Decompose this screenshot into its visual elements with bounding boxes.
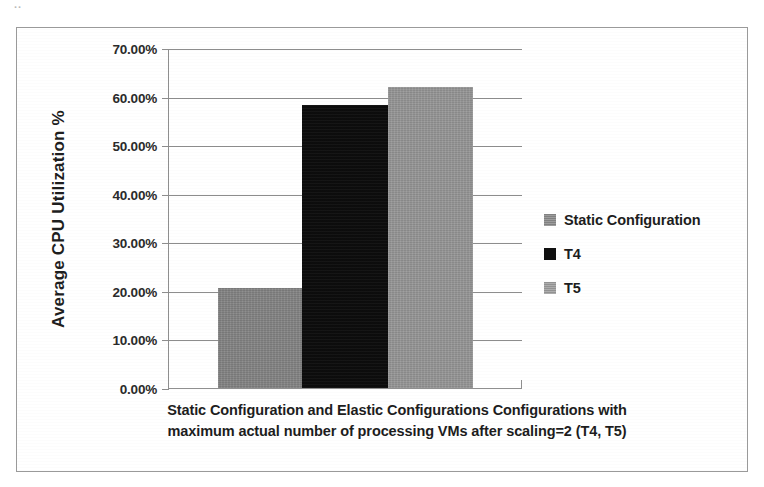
- legend-item-label: T5: [564, 280, 581, 296]
- figure-frame: Average CPU Utilization % 70.00%60.00%50…: [16, 27, 748, 472]
- plot-area: 70.00%60.00%50.00%40.00%30.00%20.00%10.0…: [168, 49, 522, 389]
- y-axis-title: Average CPU Utilization %: [46, 49, 72, 389]
- y-axis-tick-label: 70.00%: [112, 42, 157, 57]
- x-axis-right-tick: [521, 380, 522, 389]
- y-axis-tick-label: 50.00%: [112, 139, 157, 154]
- y-axis-title-label: Average CPU Utilization %: [49, 110, 69, 328]
- y-axis-tick-mark: [162, 49, 169, 50]
- gridline-70.00: [168, 49, 522, 50]
- y-axis-line: [168, 49, 169, 389]
- gridline-0.00: [168, 389, 522, 390]
- legend-item-label: Static Configuration: [564, 212, 701, 228]
- y-axis-tick-mark: [162, 98, 169, 99]
- y-axis-tick-label: 0.00%: [120, 382, 157, 397]
- legend-item-t5[interactable]: T5: [544, 271, 734, 305]
- y-axis-tick-mark: [162, 243, 169, 244]
- bar-t5[interactable]: [388, 87, 473, 388]
- y-axis-tick-label: 30.00%: [112, 236, 157, 251]
- legend-item-label: T4: [564, 246, 581, 262]
- y-axis-tick-label: 10.00%: [112, 333, 157, 348]
- legend-item-t4[interactable]: T4: [544, 237, 734, 271]
- y-axis-tick-mark: [162, 389, 169, 390]
- y-axis-tick-label: 60.00%: [112, 90, 157, 105]
- legend-swatch-icon: [544, 248, 556, 260]
- y-axis-tick-label: 20.00%: [112, 284, 157, 299]
- y-axis-tick-mark: [162, 146, 169, 147]
- bar-static-configuration[interactable]: [218, 288, 303, 388]
- legend-swatch-icon: [544, 214, 556, 226]
- y-axis-tick-mark: [162, 195, 169, 196]
- x-axis-caption: Static Configuration and Elastic Configu…: [97, 400, 697, 442]
- chart-legend: Static ConfigurationT4T5: [544, 203, 734, 305]
- x-axis-caption-line-2: maximum actual number of processing VMs …: [97, 421, 697, 442]
- y-axis-tick-mark: [162, 340, 169, 341]
- legend-swatch-icon: [544, 282, 556, 294]
- x-axis-caption-line-1: Static Configuration and Elastic Configu…: [97, 400, 697, 421]
- legend-item-static-configuration[interactable]: Static Configuration: [544, 203, 734, 237]
- y-axis-tick-label: 40.00%: [112, 187, 157, 202]
- y-axis-tick-mark: [162, 292, 169, 293]
- page-scan-artifact: ..: [14, 0, 60, 9]
- bar-t4[interactable]: [302, 105, 388, 388]
